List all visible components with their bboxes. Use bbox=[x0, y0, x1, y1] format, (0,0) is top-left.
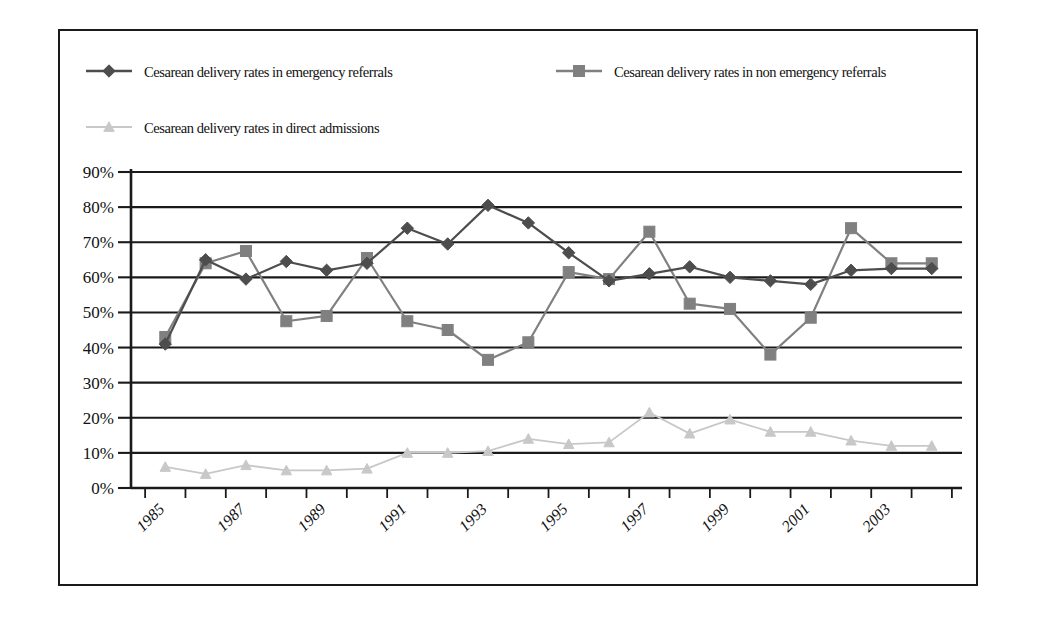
data-point-marker bbox=[725, 414, 735, 424]
y-tick-label: 30% bbox=[83, 374, 114, 393]
x-tick-label: 1999 bbox=[698, 500, 733, 535]
x-tick-label: 1987 bbox=[213, 499, 248, 534]
data-series bbox=[159, 199, 938, 478]
data-point-marker bbox=[240, 246, 251, 257]
data-point-marker bbox=[280, 255, 292, 267]
chart-legend: Cesarean delivery rates in emergency ref… bbox=[86, 64, 887, 136]
series-line bbox=[165, 228, 931, 360]
data-point-marker bbox=[281, 316, 292, 327]
x-axis bbox=[131, 488, 962, 498]
y-tick-label: 60% bbox=[83, 268, 114, 287]
data-point-marker bbox=[320, 264, 332, 276]
x-tick-label: 1997 bbox=[617, 499, 652, 534]
data-point-marker bbox=[765, 349, 776, 360]
x-tick-label: 1991 bbox=[375, 500, 410, 535]
x-tick-label: 1989 bbox=[294, 500, 329, 535]
data-point-marker bbox=[725, 303, 736, 314]
series-1 bbox=[159, 199, 938, 350]
legend-item-2[interactable]: Cesarean delivery rates in non emergency… bbox=[556, 64, 887, 80]
data-point-marker bbox=[574, 66, 585, 77]
y-tick-label: 80% bbox=[83, 198, 114, 217]
y-tick-label: 20% bbox=[83, 409, 114, 428]
data-point-marker bbox=[846, 223, 857, 234]
x-tick-label: 2001 bbox=[778, 500, 813, 535]
data-point-marker bbox=[724, 271, 736, 283]
y-tick-label: 40% bbox=[83, 339, 114, 358]
legend-label: Cesarean delivery rates in direct admiss… bbox=[144, 120, 380, 136]
series-line bbox=[165, 413, 931, 474]
data-point-marker bbox=[523, 337, 534, 348]
legend-item-3[interactable]: Cesarean delivery rates in direct admiss… bbox=[86, 120, 380, 136]
data-point-marker bbox=[644, 407, 654, 417]
data-point-marker bbox=[845, 264, 857, 276]
y-tick-label: 90% bbox=[83, 163, 114, 182]
data-point-marker bbox=[103, 65, 115, 77]
data-point-marker bbox=[483, 354, 494, 365]
data-point-marker bbox=[684, 261, 696, 273]
x-tick-label: 1995 bbox=[536, 500, 571, 535]
data-point-marker bbox=[442, 325, 453, 336]
y-tick-label: 70% bbox=[83, 233, 114, 252]
data-point-marker bbox=[563, 267, 574, 278]
data-point-marker bbox=[805, 312, 816, 323]
data-point-marker bbox=[805, 278, 817, 290]
gridlines bbox=[131, 169, 962, 488]
x-tick-label: 1993 bbox=[455, 500, 490, 535]
data-point-marker bbox=[160, 462, 170, 472]
y-tick-label: 50% bbox=[83, 303, 114, 322]
legend-label: Cesarean delivery rates in emergency ref… bbox=[144, 64, 393, 80]
y-tick-label: 0% bbox=[91, 479, 114, 498]
data-point-marker bbox=[240, 273, 252, 285]
legend-item-1[interactable]: Cesarean delivery rates in emergency ref… bbox=[86, 64, 393, 80]
series-line bbox=[165, 205, 931, 344]
x-tick-label: 1985 bbox=[133, 500, 168, 535]
line-chart: Cesarean delivery rates in emergency ref… bbox=[0, 0, 1038, 622]
legend-label: Cesarean delivery rates in non emergency… bbox=[614, 64, 887, 80]
data-point-marker bbox=[402, 316, 413, 327]
y-tick-label: 10% bbox=[83, 444, 114, 463]
y-axis-labels: 0%10%20%30%40%50%60%70%80%90% bbox=[83, 163, 131, 498]
chart-page: Cesarean delivery rates in emergency ref… bbox=[0, 0, 1038, 622]
data-point-marker bbox=[321, 310, 332, 321]
data-point-marker bbox=[644, 226, 655, 237]
series-2 bbox=[160, 223, 937, 366]
x-tick-label: 2003 bbox=[859, 500, 894, 535]
data-point-marker bbox=[684, 298, 695, 309]
x-axis-labels: 1985198719891991199319951997199920012003 bbox=[133, 499, 894, 534]
